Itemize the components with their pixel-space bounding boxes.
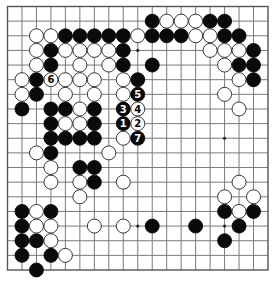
- white-stone: [87, 87, 101, 101]
- black-stone: [87, 131, 101, 145]
- star-point: [136, 49, 139, 52]
- move-number-label: 7: [134, 133, 141, 144]
- white-stone: [15, 73, 29, 87]
- black-stone: [73, 131, 87, 145]
- white-stone: [232, 43, 246, 57]
- white-stone: [58, 117, 72, 131]
- black-stone: [232, 58, 246, 72]
- white-stone: [232, 204, 246, 218]
- white-stone: [87, 43, 101, 57]
- white-stone: [232, 102, 246, 116]
- white-stone: [116, 175, 130, 189]
- black-stone: [15, 234, 29, 248]
- black-stone: [29, 263, 43, 277]
- black-stone: [44, 117, 58, 131]
- black-stone: [247, 73, 261, 87]
- black-stone: [203, 14, 217, 28]
- black-stone: [174, 29, 188, 43]
- black-stone: [218, 14, 232, 28]
- black-stone: [15, 219, 29, 233]
- black-stone: [218, 234, 232, 248]
- white-stone: [44, 161, 58, 175]
- white-stone: [189, 14, 203, 28]
- black-stone: [15, 204, 29, 218]
- black-stone: [44, 204, 58, 218]
- numbered-move-4: 4: [131, 102, 145, 116]
- white-stone: [232, 175, 246, 189]
- black-stone: [87, 117, 101, 131]
- black-stone: [232, 219, 246, 233]
- black-stone: [58, 29, 72, 43]
- white-stone: [58, 73, 72, 87]
- go-board-diagram: 1234567: [0, 0, 273, 283]
- go-board: 1234567: [0, 0, 273, 283]
- black-stone: [15, 248, 29, 262]
- numbered-move-3: 3: [116, 102, 130, 116]
- white-stone: [247, 190, 261, 204]
- black-stone: [44, 146, 58, 160]
- black-stone: [247, 58, 261, 72]
- black-stone: [145, 58, 159, 72]
- white-stone: [15, 87, 29, 101]
- white-stone: [44, 219, 58, 233]
- black-stone: [160, 29, 174, 43]
- black-stone: [73, 29, 87, 43]
- black-stone: [29, 73, 43, 87]
- move-number-label: 1: [120, 118, 127, 129]
- white-stone: [218, 87, 232, 101]
- black-stone: [102, 29, 116, 43]
- black-stone: [232, 29, 246, 43]
- white-stone: [131, 29, 145, 43]
- black-stone: [189, 219, 203, 233]
- black-stone: [87, 102, 101, 116]
- white-stone: [29, 204, 43, 218]
- white-stone: [116, 73, 130, 87]
- black-stone: [58, 131, 72, 145]
- white-stone: [58, 248, 72, 262]
- black-stone: [29, 87, 43, 101]
- white-stone: [203, 43, 217, 57]
- black-stone: [247, 204, 261, 218]
- white-stone: [232, 73, 246, 87]
- black-stone: [44, 43, 58, 57]
- move-number-label: 2: [134, 118, 141, 129]
- white-stone: [73, 43, 87, 57]
- black-stone: [15, 102, 29, 116]
- black-stone: [247, 43, 261, 57]
- white-stone: [73, 175, 87, 189]
- white-stone: [73, 102, 87, 116]
- black-stone: [87, 29, 101, 43]
- white-stone: [73, 58, 87, 72]
- black-stone: [145, 219, 159, 233]
- white-stone: [102, 146, 116, 160]
- white-stone: [218, 58, 232, 72]
- white-stone: [73, 117, 87, 131]
- black-stone: [145, 14, 159, 28]
- move-number-label: 3: [120, 104, 127, 115]
- black-stone: [44, 248, 58, 262]
- white-stone: [58, 43, 72, 57]
- star-point: [223, 224, 226, 227]
- numbered-move-7: 7: [131, 131, 145, 145]
- white-stone: [218, 43, 232, 57]
- white-stone: [29, 43, 43, 57]
- white-stone: [116, 87, 130, 101]
- black-stone: [116, 43, 130, 57]
- black-stone: [44, 102, 58, 116]
- move-number-label: 4: [134, 104, 141, 115]
- white-stone: [58, 87, 72, 101]
- white-stone: [29, 29, 43, 43]
- white-stone: [218, 190, 232, 204]
- black-stone: [145, 29, 159, 43]
- white-stone: [174, 14, 188, 28]
- move-number-label: 5: [134, 89, 141, 100]
- white-stone: [102, 43, 116, 57]
- white-stone: [29, 58, 43, 72]
- black-stone: [218, 204, 232, 218]
- black-stone: [44, 131, 58, 145]
- black-stone: [29, 234, 43, 248]
- white-stone: [73, 190, 87, 204]
- numbered-move-1: 1: [116, 117, 130, 131]
- white-stone: [116, 219, 130, 233]
- white-stone: [203, 29, 217, 43]
